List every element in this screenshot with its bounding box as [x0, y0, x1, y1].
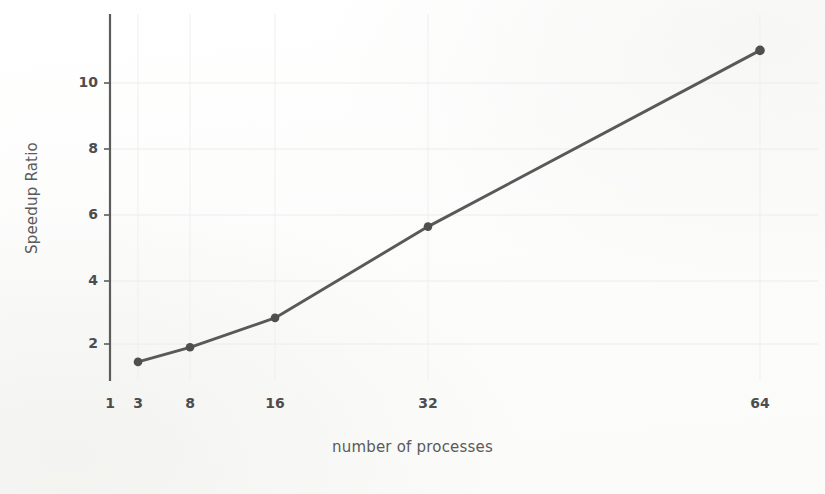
y-tick-label-8: 8	[60, 140, 98, 156]
x-tick-label-8: 8	[176, 395, 204, 411]
y-tick-label-4: 4	[60, 272, 98, 288]
line-chart-plot	[0, 0, 825, 494]
data-point-marker	[755, 46, 765, 56]
data-point-marker	[424, 222, 433, 231]
data-line-speedup	[138, 50, 760, 362]
x-tick-label-16: 16	[259, 395, 291, 411]
data-point-marker	[271, 314, 280, 323]
x-tick-label-64: 64	[744, 395, 776, 411]
y-tick-label-10: 10	[60, 74, 98, 90]
data-point-marker	[186, 343, 195, 352]
data-point-marker	[134, 358, 143, 367]
x-tick-label-32: 32	[412, 395, 444, 411]
x-tick-label-1: 1	[96, 395, 124, 411]
chart-screenshot: 10 8 6 4 2 1 3 8 16 32 64 number of proc…	[0, 0, 825, 494]
x-tick-label-3: 3	[124, 395, 152, 411]
data-point-markers	[134, 46, 765, 367]
y-tick-label-2: 2	[60, 335, 98, 351]
y-axis-label: Speedup Ratio	[23, 144, 41, 254]
vertical-gridlines	[138, 14, 760, 380]
horizontal-gridlines	[110, 83, 818, 344]
x-axis-label: number of processes	[0, 438, 825, 456]
y-tick-label-6: 6	[60, 206, 98, 222]
